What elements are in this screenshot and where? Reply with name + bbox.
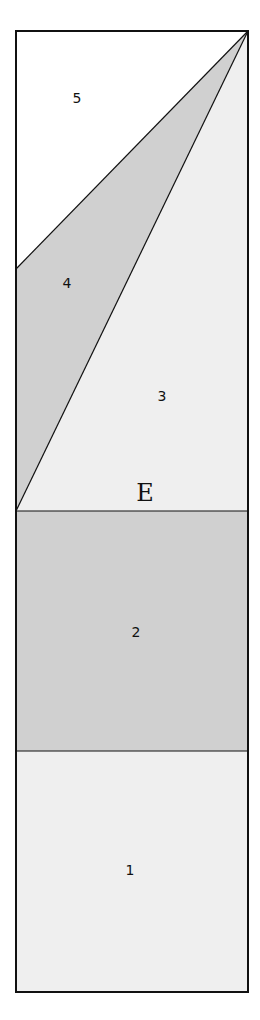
region-1-label: 1 bbox=[126, 862, 135, 878]
region-5-label: 5 bbox=[73, 90, 82, 106]
region-3-label: 3 bbox=[158, 388, 167, 404]
region-4-label: 4 bbox=[63, 275, 72, 291]
point-label-e: E bbox=[136, 479, 154, 507]
region-2-label: 2 bbox=[132, 624, 141, 640]
diagram: 5 4 3 E 2 1 bbox=[0, 0, 260, 1020]
